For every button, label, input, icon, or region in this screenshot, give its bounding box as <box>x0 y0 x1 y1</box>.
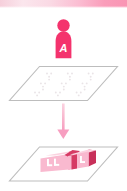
person-icon: A <box>56 19 72 58</box>
top-plane-surface <box>10 67 118 101</box>
banner-group <box>0 0 127 10</box>
empty-grid-plane <box>10 67 118 101</box>
scene-illustration: A <box>0 0 127 191</box>
figure-root: A <box>0 0 127 191</box>
banner-fade <box>0 6 127 10</box>
downward-arrow <box>57 104 69 140</box>
person-badge-letter: A <box>59 42 68 54</box>
person-head <box>57 19 69 31</box>
arrow-head <box>57 130 69 140</box>
arrow-shaft <box>62 104 65 131</box>
block-right-divider <box>72 154 78 169</box>
populated-plane <box>10 147 118 181</box>
